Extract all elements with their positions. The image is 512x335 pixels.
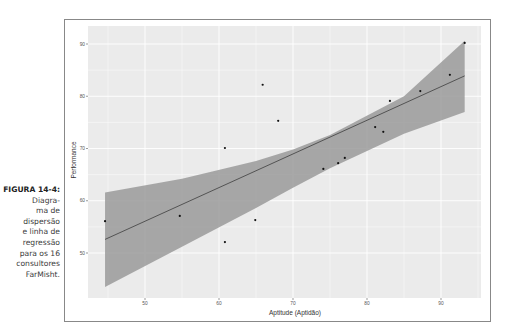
x-tick-label: 80 [364,301,370,306]
y-axis-title: Performance [70,141,77,179]
data-point [224,241,226,243]
data-point [464,42,466,44]
data-point [344,157,346,159]
y-tick-label: 60 [80,198,86,203]
data-point [277,120,279,122]
data-point [382,131,384,133]
y-tick-label: 80 [80,94,86,99]
scatter-plot: 5060708090 5060708090 Aptitude (Aptidão)… [0,0,512,335]
x-tick-label: 70 [290,301,296,306]
data-point [179,215,181,217]
data-point [374,126,376,128]
data-point [337,162,339,164]
data-point [389,100,391,102]
x-axis-title: Aptitude (Aptidão) [269,309,321,317]
data-point [104,220,106,222]
data-point [262,84,264,86]
y-tick-label: 70 [80,146,86,151]
x-tick-label: 50 [142,301,148,306]
data-point [254,219,256,221]
x-tick-label: 60 [216,301,222,306]
data-point [419,90,421,92]
y-axis-ticks: 5060708090 [80,42,88,256]
data-point [322,168,324,170]
y-tick-label: 50 [80,251,86,256]
x-tick-label: 90 [438,301,444,306]
x-axis-ticks: 5060708090 [142,298,444,306]
data-point [449,74,451,76]
data-point [224,147,226,149]
y-tick-label: 90 [80,42,86,47]
